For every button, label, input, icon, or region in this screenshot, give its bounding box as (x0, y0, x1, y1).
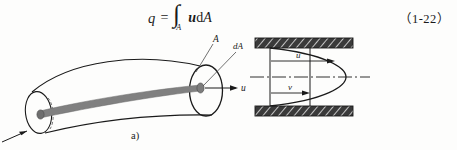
top-wall (255, 38, 353, 48)
figure-a-streamtube: u A dA a) (0, 30, 250, 150)
streamtube-drawing: u A dA (0, 30, 250, 150)
bottom-wall (255, 106, 353, 116)
stream-filament-body (40, 85, 200, 118)
label-velocity-v-bottom: v (288, 82, 292, 92)
figure-b-velocity-profile: u v b) (248, 30, 388, 150)
tube-top-edge (32, 59, 200, 92)
equation-number: （1-22） (399, 8, 450, 27)
label-area-A: A (212, 34, 219, 44)
figures-container: u A dA a) (0, 30, 457, 150)
tube-bottom-edge (45, 115, 212, 133)
integrand-velocity: u (188, 10, 196, 25)
equation-1-22: q = ∫ A udA (148, 5, 212, 31)
equals-sign: = (160, 10, 168, 26)
leader-line-element-dA (203, 52, 236, 86)
label-velocity-u: u (241, 83, 246, 93)
label-velocity-u-top: u (296, 50, 301, 60)
stream-filament-right-cap-dA (197, 83, 204, 93)
integral-group: ∫ A (173, 5, 187, 31)
stream-filament-left-cap (37, 110, 44, 119)
figure-page: q = ∫ A udA （1-22） (0, 0, 457, 150)
inflow-arrow (2, 131, 27, 142)
velocity-arrow-u (205, 85, 238, 91)
equation-left-hand-side: q (148, 10, 155, 27)
integrand: udA (188, 10, 211, 26)
velocity-profile-drawing: u v (248, 30, 388, 150)
label-element-dA: dA (233, 41, 244, 51)
caption-figure-a: a) (131, 130, 139, 141)
differential-area: A (203, 10, 212, 25)
leader-line-area-A (196, 44, 213, 72)
